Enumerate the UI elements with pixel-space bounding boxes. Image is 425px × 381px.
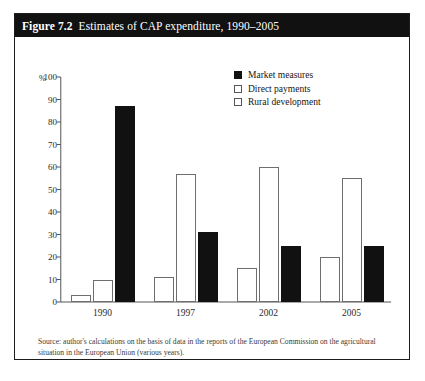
bar-2002-market-measures bbox=[281, 246, 301, 302]
x-axis-tick-label: 2002 bbox=[259, 308, 278, 318]
legend-item: Market measures bbox=[234, 70, 321, 80]
bar-2002-direct-payments bbox=[259, 167, 279, 302]
bar-1997-direct-payments bbox=[176, 174, 196, 302]
figure-number: Figure 7.2 bbox=[22, 20, 73, 32]
bar-1997-market-measures bbox=[198, 232, 218, 302]
figure-title: Figure 7.2 Estimates of CAP expenditure,… bbox=[15, 20, 279, 32]
legend-item: Direct payments bbox=[234, 84, 321, 94]
legend-swatch-icon bbox=[234, 71, 242, 79]
bar-2005-direct-payments bbox=[342, 178, 362, 302]
bar-1997-rural-development bbox=[154, 277, 174, 302]
chart-plot-area: % 0102030405060708090100 199019972002200… bbox=[15, 37, 409, 326]
bar-1990-rural-development bbox=[71, 295, 91, 302]
legend-swatch-icon bbox=[234, 98, 242, 106]
bar-2005-market-measures bbox=[364, 246, 384, 302]
bar-1990-direct-payments bbox=[93, 280, 113, 303]
bar-2005-rural-development bbox=[320, 257, 340, 302]
legend-label: Rural development bbox=[248, 97, 321, 107]
x-axis-tick-label: 1990 bbox=[93, 308, 112, 318]
x-axis-tick-label: 1997 bbox=[176, 308, 195, 318]
legend-label: Market measures bbox=[248, 70, 313, 80]
figure-caption: Estimates of CAP expenditure, 1990–2005 bbox=[79, 20, 280, 32]
bar-1990-market-measures bbox=[115, 106, 135, 302]
legend-swatch-icon bbox=[234, 85, 242, 93]
x-axis-tick-label: 2005 bbox=[342, 308, 361, 318]
figure-title-bar: Figure 7.2 Estimates of CAP expenditure,… bbox=[15, 14, 409, 37]
chart-legend: Market measuresDirect paymentsRural deve… bbox=[234, 70, 321, 111]
bar-2002-rural-development bbox=[237, 268, 257, 302]
figure-source-note: Source: author's calculations on the bas… bbox=[38, 336, 383, 358]
legend-item: Rural development bbox=[234, 97, 321, 107]
legend-label: Direct payments bbox=[248, 84, 311, 94]
figure-container: Figure 7.2 Estimates of CAP expenditure,… bbox=[14, 13, 410, 360]
chart-bars bbox=[15, 37, 409, 326]
